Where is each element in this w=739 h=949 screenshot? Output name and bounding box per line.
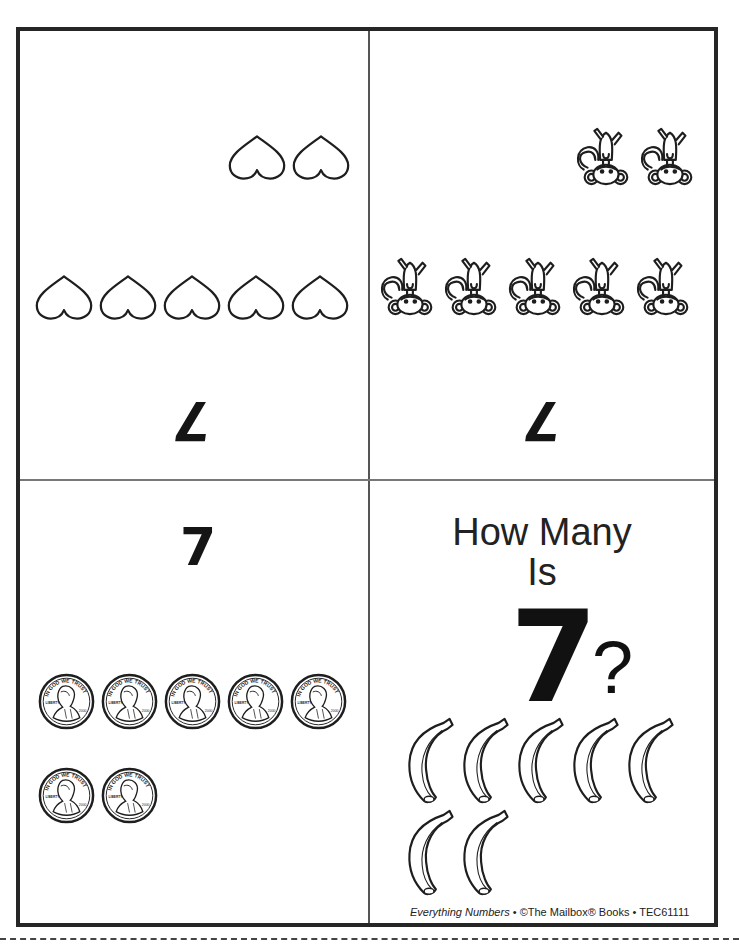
banana-row-top: [406, 717, 676, 805]
penny-coin-icon: [290, 673, 347, 730]
panel-top-left-hearts: 7: [20, 31, 368, 479]
penny-coin-icon: [101, 673, 158, 730]
dashed-cut-line: [0, 938, 739, 940]
monkey-icon: [634, 254, 696, 318]
title-line-1: How Many: [370, 513, 714, 553]
monkey-icon: [570, 254, 632, 318]
separator: •: [513, 906, 517, 918]
banana-icon: [406, 717, 456, 805]
publisher: ©The Mailbox® Books: [520, 906, 630, 918]
heart-outline-icon: [34, 269, 94, 325]
heart-row-bottom: [34, 269, 350, 325]
question-mark: ?: [592, 631, 633, 705]
penny-row-top: [38, 673, 347, 730]
heart-outline-icon: [291, 129, 351, 185]
heart-row-top: [227, 129, 351, 185]
penny-coin-icon: [101, 767, 158, 824]
monkey-icon: [638, 124, 700, 188]
banana-icon: [516, 717, 566, 805]
monkey-row-top: [574, 124, 700, 188]
big-numeral: 7: [510, 595, 598, 721]
page-border: 7 7 7 How Man: [16, 27, 718, 927]
monkey-row-bottom: [378, 254, 696, 318]
penny-coin-icon: [38, 673, 95, 730]
heart-outline-icon: [227, 129, 287, 185]
banana-icon: [626, 717, 676, 805]
banana-icon: [406, 809, 456, 897]
heart-outline-icon: [162, 269, 222, 325]
banana-icon: [461, 809, 511, 897]
monkey-icon: [442, 254, 504, 318]
numeral: 7: [180, 521, 216, 573]
product-code: TEC61111: [639, 906, 689, 918]
monkey-icon: [378, 254, 440, 318]
penny-coin-icon: [38, 767, 95, 824]
penny-row-bottom: [38, 767, 158, 824]
banana-row-bottom: [406, 809, 511, 897]
panel-top-right-monkeys: 7: [370, 31, 714, 479]
numeral-upside-down: 7: [170, 393, 215, 447]
penny-coin-icon: [227, 673, 284, 730]
book-title: Everything Numbers: [410, 906, 510, 918]
banana-icon: [571, 717, 621, 805]
panel-bottom-right-cover: How Many Is 7 ? Everything Numbers • ©Th…: [370, 481, 714, 923]
banana-icon: [461, 717, 511, 805]
heart-outline-icon: [98, 269, 158, 325]
monkey-icon: [506, 254, 568, 318]
monkey-icon: [574, 124, 636, 188]
heart-outline-icon: [226, 269, 286, 325]
separator: •: [632, 906, 636, 918]
panel-bottom-left-pennies: 7: [20, 481, 368, 923]
copyright-footer: Everything Numbers • ©The Mailbox® Books…: [410, 906, 689, 918]
cover-title: How Many Is: [370, 513, 714, 593]
penny-coin-icon: [164, 673, 221, 730]
numeral-upside-down: 7: [520, 393, 565, 447]
heart-outline-icon: [290, 269, 350, 325]
